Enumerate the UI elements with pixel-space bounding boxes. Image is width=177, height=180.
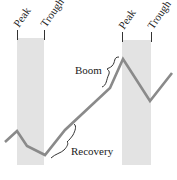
boom-label: Boom <box>75 64 102 76</box>
trough-label-2: Trough <box>145 0 173 31</box>
recovery-label: Recovery <box>71 145 114 157</box>
peak-label-1: Peak <box>11 4 33 29</box>
contraction-band-1 <box>17 38 44 165</box>
contraction-band-2 <box>122 40 151 165</box>
trough-label-1: Trough <box>38 0 66 29</box>
peak-label-2: Peak <box>116 6 138 31</box>
business-cycle-diagram: Peak Trough Peak Trough Boom Recovery <box>0 0 177 180</box>
